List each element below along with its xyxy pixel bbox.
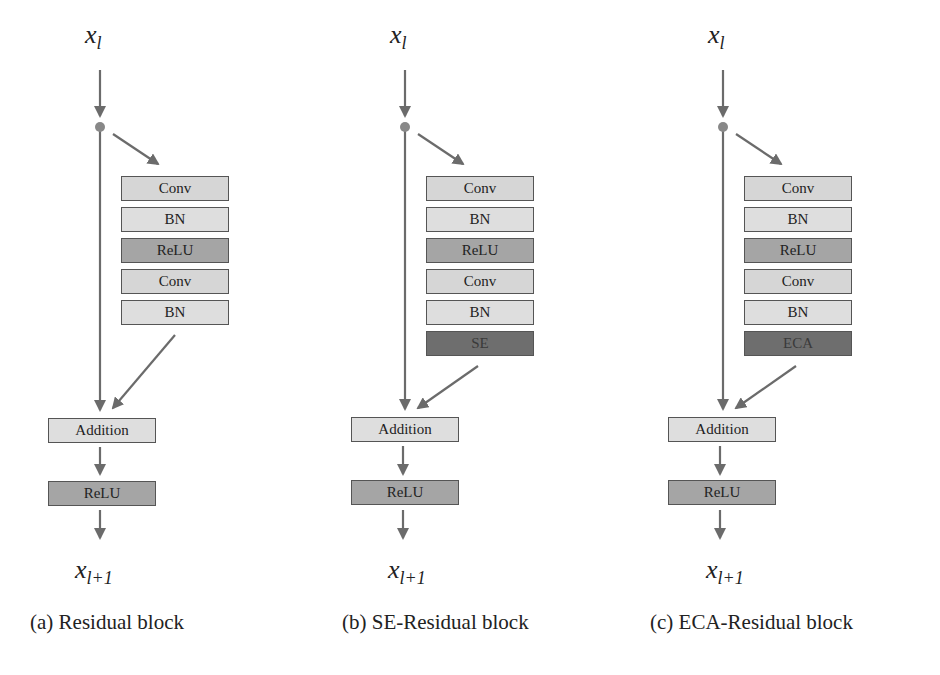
relu-layer: ReLU	[426, 238, 534, 263]
conv-layer-1: Conv	[744, 176, 852, 201]
input-var-c: xl	[708, 20, 725, 54]
addition-node: Addition	[48, 418, 156, 443]
caption-c: (c) ECA-Residual block	[650, 610, 853, 635]
input-var-a: xl	[85, 20, 102, 54]
relu-layer: ReLU	[744, 238, 852, 263]
output-relu: ReLU	[351, 480, 459, 505]
branch-node	[400, 122, 410, 132]
output-relu: ReLU	[48, 481, 156, 506]
se-module: SE	[426, 331, 534, 356]
output-var-a: xl+1	[75, 555, 113, 589]
conv-layer-1: Conv	[121, 176, 229, 201]
bn-layer-2: BN	[744, 300, 852, 325]
relu-layer: ReLU	[121, 238, 229, 263]
input-var-b: xl	[390, 20, 407, 54]
conv-layer-2: Conv	[426, 269, 534, 294]
branch-node	[718, 122, 728, 132]
addition-node: Addition	[668, 417, 776, 442]
output-relu: ReLU	[668, 480, 776, 505]
conv-layer-1: Conv	[426, 176, 534, 201]
conv-layer-2: Conv	[744, 269, 852, 294]
branch-node	[95, 122, 105, 132]
bn-layer-2: BN	[426, 300, 534, 325]
bn-layer-1: BN	[744, 207, 852, 232]
bn-layer-1: BN	[426, 207, 534, 232]
output-var-c: xl+1	[706, 555, 744, 589]
bn-layer-1: BN	[121, 207, 229, 232]
addition-node: Addition	[351, 417, 459, 442]
conv-layer-2: Conv	[121, 269, 229, 294]
caption-a: (a) Residual block	[30, 610, 184, 635]
bn-layer-2: BN	[121, 300, 229, 325]
output-var-b: xl+1	[388, 555, 426, 589]
eca-module: ECA	[744, 331, 852, 356]
caption-b: (b) SE-Residual block	[342, 610, 529, 635]
